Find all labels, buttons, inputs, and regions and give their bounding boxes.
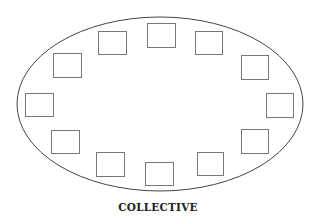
member-box — [99, 32, 127, 55]
member-box — [242, 130, 269, 154]
member-boxes — [26, 24, 294, 186]
member-box — [196, 32, 223, 55]
member-box — [148, 24, 176, 48]
member-box — [267, 94, 294, 118]
member-box — [97, 153, 125, 177]
member-box — [242, 56, 269, 80]
collective-diagram — [0, 0, 320, 224]
collective-ellipse — [17, 17, 303, 191]
member-box — [146, 163, 174, 186]
member-box — [26, 94, 54, 117]
diagram-caption: COLLECTIVE — [0, 201, 316, 213]
member-box — [54, 54, 82, 78]
member-box — [198, 153, 224, 176]
member-box — [52, 131, 80, 154]
